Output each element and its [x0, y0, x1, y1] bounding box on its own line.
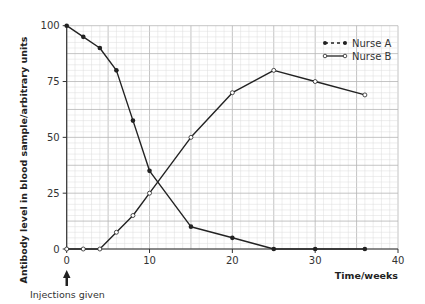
legend-label-nurse-a: Nurse A: [352, 38, 391, 49]
legend-item-nurse-a: Nurse A: [323, 38, 391, 49]
open-circle-marker-icon: [343, 54, 347, 58]
injections-given-label: Injections given: [30, 289, 105, 300]
filled-circle-marker-icon: [98, 46, 103, 51]
y-axis-ticks: 0255075100: [41, 20, 67, 254]
filled-circle-marker-icon: [64, 23, 69, 28]
filled-circle-marker-icon: [131, 118, 136, 123]
antibody-line-chart: 010203040 0255075100 Time/weeks Antibody…: [0, 0, 425, 304]
x-tick-label: 0: [64, 255, 70, 266]
y-tick-label: 25: [47, 188, 60, 199]
y-tick-label: 0: [53, 244, 59, 255]
filled-circle-marker-icon: [313, 247, 318, 252]
x-tick-label: 20: [226, 255, 239, 266]
filled-circle-marker-icon: [343, 41, 347, 45]
filled-circle-marker-icon: [323, 41, 327, 45]
open-circle-marker-icon: [189, 135, 193, 139]
open-circle-marker-icon: [131, 214, 135, 218]
y-tick-label: 50: [47, 132, 60, 143]
y-tick-label: 75: [47, 76, 60, 87]
open-circle-marker-icon: [313, 80, 317, 84]
legend-label-nurse-b: Nurse B: [352, 51, 391, 62]
chart-grid: [67, 26, 398, 249]
open-circle-marker-icon: [81, 247, 85, 251]
x-tick-label: 10: [143, 255, 156, 266]
injections-annotation: Injections given: [30, 270, 105, 300]
x-axis-title: Time/weeks: [335, 270, 399, 281]
filled-circle-marker-icon: [114, 68, 119, 73]
open-circle-marker-icon: [272, 68, 276, 72]
filled-circle-marker-icon: [271, 247, 276, 252]
open-circle-marker-icon: [114, 230, 118, 234]
x-axis-ticks: 010203040: [64, 249, 405, 266]
filled-circle-marker-icon: [147, 169, 152, 174]
open-circle-marker-icon: [65, 247, 69, 251]
x-tick-label: 30: [309, 255, 322, 266]
filled-circle-marker-icon: [230, 236, 235, 241]
open-circle-marker-icon: [98, 247, 102, 251]
filled-circle-marker-icon: [363, 247, 368, 252]
open-circle-marker-icon: [230, 91, 234, 95]
x-tick-label: 40: [392, 255, 405, 266]
open-circle-marker-icon: [148, 191, 152, 195]
filled-circle-marker-icon: [81, 35, 86, 40]
filled-circle-marker-icon: [189, 224, 194, 229]
y-axis-title: Antibody level in blood sample/arbitrary…: [18, 36, 29, 283]
arrow-up-icon: [63, 270, 71, 286]
open-circle-marker-icon: [363, 93, 367, 97]
legend-item-nurse-b: Nurse B: [323, 51, 391, 62]
y-tick-label: 100: [41, 20, 60, 31]
open-circle-marker-icon: [323, 54, 327, 58]
